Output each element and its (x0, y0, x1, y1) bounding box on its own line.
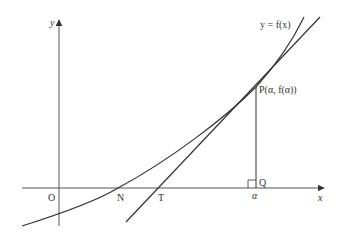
point-t-label: T (158, 192, 164, 203)
alpha-label: α (252, 190, 258, 201)
point-p-label: P(α, f(α)) (259, 84, 297, 96)
x-axis-label: x (317, 192, 323, 203)
right-angle-marker (248, 180, 256, 188)
diagram-canvas: y x O N T α Q P(α, f(α)) y = f(x) (0, 0, 340, 244)
point-q-label: Q (259, 177, 267, 188)
y-axis-label: y (49, 17, 55, 28)
point-n-label: N (117, 192, 124, 203)
tangent-line (126, 17, 320, 222)
curve-label: y = f(x) (260, 19, 291, 31)
origin-label: O (48, 192, 55, 203)
